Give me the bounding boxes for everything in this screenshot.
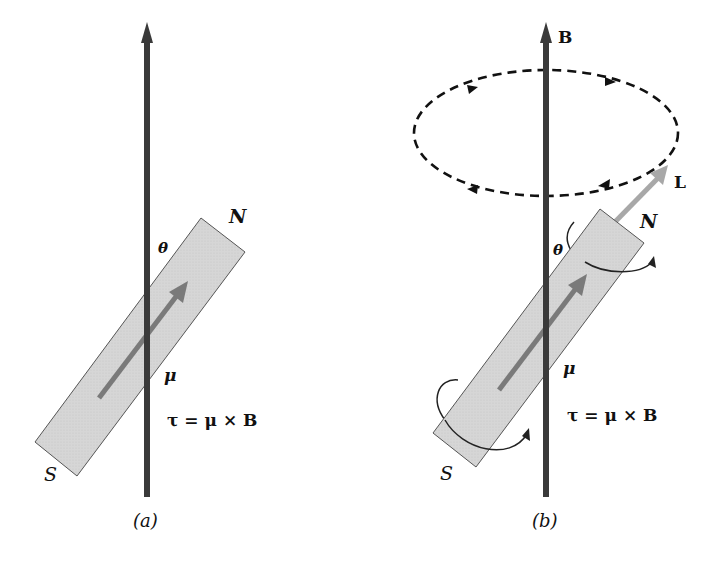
field-axis-b [540, 22, 552, 497]
mu-label-a: μ [164, 367, 176, 384]
panel-caption-a: (a) [133, 512, 158, 530]
torque-equation-a: τ = μ × B [167, 412, 257, 429]
south-pole-label-a: S [44, 465, 57, 484]
mu-label-b: μ [563, 360, 575, 377]
field-axis-a [141, 22, 153, 497]
precession-arrowhead-icon [467, 85, 478, 94]
theta-label-b: θ [553, 243, 563, 258]
torque-equation-b: τ = μ × B [567, 407, 657, 424]
panel-b [414, 22, 678, 497]
angular-momentum-arrow [610, 165, 668, 227]
south-pole-label-b: S [440, 464, 453, 483]
magnetic-moment-precession-figure: N θ μ τ = μ × B S (a) B L N θ μ τ = μ × … [0, 0, 706, 567]
diagram-canvas [0, 0, 706, 567]
panel-caption-b: (b) [532, 512, 558, 530]
precession-arrowhead-icon [598, 179, 610, 189]
theta-label-a: θ [158, 241, 168, 256]
north-pole-label-a: N [229, 207, 246, 226]
field-label-B: B [558, 29, 572, 46]
angular-momentum-label-L: L [674, 174, 686, 191]
north-pole-label-b: N [640, 212, 657, 231]
